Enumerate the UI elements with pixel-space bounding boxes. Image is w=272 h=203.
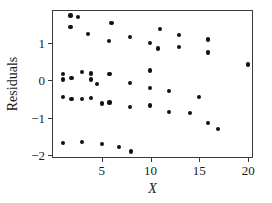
data-point: [197, 95, 201, 99]
data-point: [80, 70, 84, 74]
y-axis-tick: [48, 118, 53, 119]
data-point: [89, 96, 93, 100]
x-axis-tick-label: 10: [144, 164, 157, 177]
data-point: [158, 27, 162, 31]
x-axis-tick-label: 20: [242, 164, 255, 177]
data-point: [95, 82, 99, 86]
data-point: [148, 68, 152, 72]
data-point: [129, 149, 133, 153]
y-axis-tick: [48, 155, 53, 156]
x-axis-tick-label: 5: [99, 164, 106, 177]
data-point: [100, 142, 104, 146]
x-axis-tick-label: 15: [193, 164, 206, 177]
data-point: [148, 103, 152, 107]
x-axis-tick: [102, 157, 103, 162]
data-point: [69, 97, 73, 101]
data-point: [177, 33, 181, 37]
data-point: [216, 127, 220, 131]
data-point: [148, 41, 152, 45]
data-point: [89, 71, 93, 75]
data-point: [128, 35, 132, 39]
x-axis-tick: [248, 157, 249, 162]
data-point: [61, 141, 65, 145]
y-axis-tick: [48, 43, 53, 44]
x-axis-tick: [151, 157, 152, 162]
data-point: [167, 89, 171, 93]
data-point: [148, 86, 152, 90]
data-point: [69, 76, 73, 80]
data-point: [188, 111, 192, 115]
data-point: [107, 72, 111, 76]
data-point: [177, 45, 181, 49]
scatter-plot-figure: Residuals 10−1−2 5101520 X: [0, 0, 272, 203]
data-point: [128, 105, 132, 109]
x-axis-label: X: [52, 181, 253, 197]
data-point: [61, 72, 65, 76]
y-axis-tick-label: −1: [31, 111, 45, 124]
data-point: [206, 50, 210, 54]
data-point: [167, 110, 171, 114]
plot-area: 10−1−2 5101520: [52, 10, 253, 158]
data-point: [80, 97, 84, 101]
data-point: [89, 77, 93, 81]
data-point: [61, 77, 65, 81]
y-axis-tick-label: −2: [31, 149, 45, 162]
data-point: [128, 81, 132, 85]
y-axis-tick: [48, 80, 53, 81]
data-point: [68, 25, 72, 29]
data-point: [68, 13, 72, 17]
data-point: [107, 100, 111, 104]
data-point: [61, 95, 65, 99]
data-point: [107, 39, 111, 43]
y-axis-label: Residuals: [5, 57, 21, 111]
data-point: [109, 21, 113, 25]
y-axis-tick-label: 1: [39, 36, 46, 49]
data-points-layer: [53, 11, 252, 157]
data-point: [117, 145, 121, 149]
data-point: [156, 46, 160, 50]
data-point: [206, 121, 210, 125]
y-axis-tick-label: 0: [39, 74, 46, 87]
y-axis-label-container: Residuals: [11, 0, 27, 168]
data-point: [100, 101, 104, 105]
data-point: [246, 62, 250, 66]
data-point: [80, 140, 84, 144]
data-point: [76, 15, 80, 19]
data-point: [86, 32, 90, 36]
data-point: [206, 37, 210, 41]
x-axis-tick: [199, 157, 200, 162]
